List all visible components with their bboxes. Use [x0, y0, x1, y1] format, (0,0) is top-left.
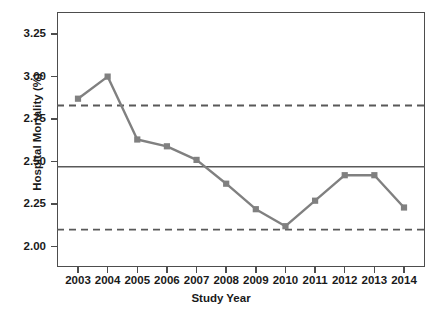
- y-tick-label: 3.00: [0, 70, 46, 82]
- data-point-marker: [371, 172, 377, 178]
- data-point-marker: [193, 157, 199, 163]
- data-point-marker: [164, 143, 170, 149]
- x-tick-label: 2014: [391, 274, 417, 286]
- data-point-marker: [282, 223, 288, 229]
- x-tick-mark: [77, 267, 78, 273]
- x-tick-label: 2013: [362, 274, 388, 286]
- data-point-marker: [312, 198, 318, 204]
- x-tick-mark: [137, 267, 138, 273]
- x-tick-label: 2007: [184, 274, 210, 286]
- data-point-marker: [253, 206, 259, 212]
- x-tick-label: 2009: [243, 274, 269, 286]
- data-point-marker: [75, 96, 81, 102]
- y-tick-label: 2.75: [0, 112, 46, 124]
- reference-lines: [57, 106, 425, 230]
- x-tick-label: 2008: [213, 274, 239, 286]
- x-tick-label: 2005: [124, 274, 150, 286]
- x-tick-mark: [344, 267, 345, 273]
- x-tick-label: 2004: [95, 274, 121, 286]
- x-tick-mark: [225, 267, 226, 273]
- y-tick-label: 2.25: [0, 197, 46, 209]
- x-tick-mark: [285, 267, 286, 273]
- data-point-marker: [134, 136, 140, 142]
- x-tick-label: 2012: [332, 274, 358, 286]
- x-tick-mark: [107, 267, 108, 273]
- x-tick-label: 2011: [303, 274, 328, 286]
- data-series-line: [78, 77, 404, 227]
- chart-container: Hospital Mortality (%) 3.253.002.752.502…: [0, 0, 442, 317]
- y-tick-label: 2.00: [0, 240, 46, 252]
- x-tick-label: 2010: [273, 274, 299, 286]
- data-point-marker: [223, 181, 229, 187]
- y-tick-label: 2.50: [0, 155, 46, 167]
- x-tick-mark: [314, 267, 315, 273]
- x-axis-title: Study Year: [0, 292, 442, 304]
- data-point-marker: [401, 204, 407, 210]
- x-tick-label: 2003: [65, 274, 91, 286]
- x-tick-label: 2006: [154, 274, 180, 286]
- data-point-markers: [75, 74, 407, 230]
- plot-area: [57, 12, 425, 267]
- data-point-marker: [105, 74, 111, 80]
- x-tick-mark: [166, 267, 167, 273]
- x-tick-mark: [374, 267, 375, 273]
- x-tick-mark: [403, 267, 404, 273]
- x-tick-mark: [255, 267, 256, 273]
- series-line-hospital-mortality: [78, 77, 404, 227]
- x-tick-mark: [196, 267, 197, 273]
- data-point-marker: [342, 172, 348, 178]
- y-tick-label: 3.25: [0, 27, 46, 39]
